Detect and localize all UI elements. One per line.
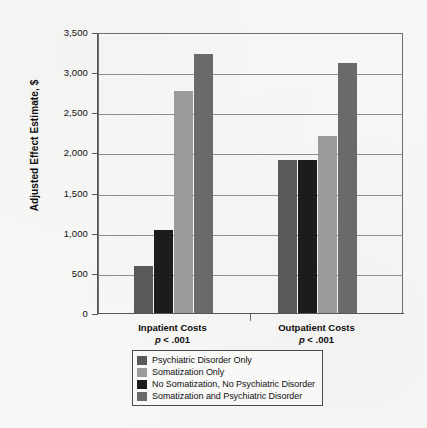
legend-label: Somatization Only xyxy=(152,367,224,377)
x-axis-category-label: Outpatient Costsp < .001 xyxy=(247,322,387,346)
legend-item: Somatization and Psychiatric Disorder xyxy=(137,390,318,402)
y-axis-tick-label: 500 xyxy=(44,268,88,279)
legend-swatch xyxy=(137,356,147,365)
x-axis-category-label: Inpatient Costsp < .001 xyxy=(103,322,243,346)
legend-swatch xyxy=(137,380,147,389)
bar xyxy=(278,160,297,313)
y-axis-tick-label: 1,000 xyxy=(44,228,88,239)
y-axis-tick xyxy=(92,33,98,34)
y-axis-tick-labels: 3,5003,0002,5002,0001,5001,0005000 xyxy=(42,0,88,428)
bar xyxy=(194,54,213,313)
category-name: Inpatient Costs xyxy=(103,322,243,334)
y-axis-tick-label: 3,000 xyxy=(44,67,88,78)
y-axis-tick xyxy=(92,194,98,195)
bar xyxy=(134,266,153,313)
category-name: Outpatient Costs xyxy=(247,322,387,334)
y-axis-tick-label: 1,500 xyxy=(44,188,88,199)
bar xyxy=(154,230,173,313)
bar xyxy=(318,136,337,313)
y-axis-title: Adjusted Effect Estimate, $ xyxy=(29,46,40,246)
bar xyxy=(174,91,193,313)
y-axis-tick xyxy=(92,234,98,235)
bar xyxy=(338,63,357,313)
y-axis-tick-label: 2,000 xyxy=(44,147,88,158)
y-axis-tick xyxy=(92,274,98,275)
chart-legend: Psychiatric Disorder OnlySomatization On… xyxy=(132,350,323,406)
legend-label: No Somatization, No Psychiatric Disorder xyxy=(152,379,315,389)
bar xyxy=(298,160,317,313)
y-axis-tick-label: 0 xyxy=(44,308,88,319)
y-axis-tick xyxy=(92,113,98,114)
legend-item: Psychiatric Disorder Only xyxy=(137,354,318,366)
y-axis-tick xyxy=(92,153,98,154)
legend-swatch xyxy=(137,392,147,401)
legend-label: Psychiatric Disorder Only xyxy=(152,355,252,365)
y-axis-tick xyxy=(92,73,98,74)
category-pvalue: p < .001 xyxy=(247,334,387,346)
chart-page: Adjusted Effect Estimate, $ 3,5003,0002,… xyxy=(0,0,427,428)
y-axis-tick-label: 2,500 xyxy=(44,107,88,118)
y-axis-tick xyxy=(92,314,98,315)
legend-swatch xyxy=(137,368,147,377)
legend-item: Somatization Only xyxy=(137,366,318,378)
x-axis-separator-tick xyxy=(250,314,251,321)
legend-item: No Somatization, No Psychiatric Disorder xyxy=(137,378,318,390)
x-axis-line xyxy=(98,313,404,314)
plot-area xyxy=(98,33,403,314)
legend-label: Somatization and Psychiatric Disorder xyxy=(152,391,302,401)
category-pvalue: p < .001 xyxy=(103,334,243,346)
y-axis-tick-label: 3,500 xyxy=(44,27,88,38)
